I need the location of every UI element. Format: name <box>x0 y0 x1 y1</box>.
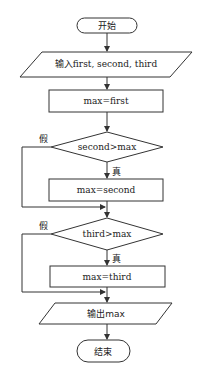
false-label-1: 假 <box>39 134 48 144</box>
end-node: 结束 <box>77 340 130 362</box>
assign-third-label: max=third <box>83 272 132 282</box>
flowchart: 开始 输入first, second, third max=first seco… <box>0 0 203 378</box>
assign-second-label: max=second <box>77 185 136 195</box>
input-node: 输入first, second, third <box>20 52 192 77</box>
cond-third-label: third>max <box>83 229 132 239</box>
true-label-2: 真 <box>112 253 121 264</box>
assign-second-node: max=second <box>49 179 163 201</box>
cond-second-node: second>max <box>51 132 163 162</box>
cond-second-label: second>max <box>78 142 136 152</box>
assign-third-node: max=third <box>50 266 165 287</box>
input-label: 输入first, second, third <box>55 58 158 69</box>
end-label: 结束 <box>94 346 112 357</box>
assign-first-node: max=first <box>49 90 163 112</box>
true-label-1: 真 <box>112 166 121 177</box>
cond-third-node: third>max <box>51 218 163 250</box>
start-label: 开始 <box>98 20 116 31</box>
false-label-2: 假 <box>39 221 48 231</box>
assign-first-label: max=first <box>83 96 128 106</box>
output-node: 输出max <box>39 303 172 324</box>
output-label: 输出max <box>87 308 125 319</box>
start-node: 开始 <box>77 18 137 33</box>
